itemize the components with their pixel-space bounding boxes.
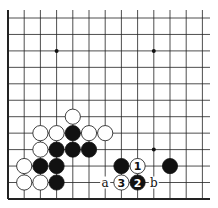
white-stone bbox=[98, 126, 113, 141]
white-stone: 3 bbox=[114, 175, 129, 190]
black-stone bbox=[114, 158, 129, 173]
white-stone bbox=[33, 126, 48, 141]
star-point bbox=[55, 49, 59, 53]
point-label-b: b bbox=[150, 176, 158, 190]
white-stone: 1 bbox=[130, 158, 145, 173]
black-stone bbox=[49, 142, 64, 157]
black-stone bbox=[65, 142, 80, 157]
star-point bbox=[152, 49, 156, 53]
black-stone bbox=[49, 175, 64, 190]
move-number: 2 bbox=[134, 177, 142, 190]
black-stone bbox=[65, 126, 80, 141]
move-number: 3 bbox=[118, 177, 126, 190]
black-stone bbox=[33, 158, 48, 173]
black-stone bbox=[81, 142, 96, 157]
black-stone bbox=[162, 158, 177, 173]
white-stone bbox=[17, 175, 32, 190]
white-stone bbox=[17, 158, 32, 173]
black-stone bbox=[49, 158, 64, 173]
white-stone bbox=[65, 109, 80, 124]
white-stone bbox=[33, 175, 48, 190]
move-number: 1 bbox=[134, 160, 142, 173]
white-stone bbox=[81, 126, 96, 141]
white-stone bbox=[33, 142, 48, 157]
go-board-diagram: 132 ab bbox=[0, 0, 218, 208]
point-label-a: a bbox=[102, 176, 109, 190]
star-point bbox=[152, 148, 156, 152]
black-stone: 2 bbox=[130, 175, 145, 190]
white-stone bbox=[49, 126, 64, 141]
